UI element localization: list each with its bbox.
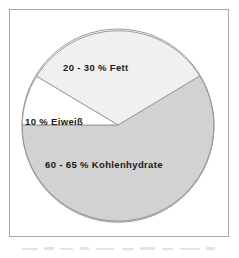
pie-label-kohlenhydrate: 60 - 65 % Kohlenhydrate [45,160,163,170]
pie-label-fett: 20 - 30 % Fett [63,63,129,73]
pie-chart [0,0,239,258]
figure-canvas: 20 - 30 % Fett 10 % Eiweiß 60 - 65 % Koh… [0,0,239,258]
pie-label-eiweiss: 10 % Eiweiß [25,117,83,127]
